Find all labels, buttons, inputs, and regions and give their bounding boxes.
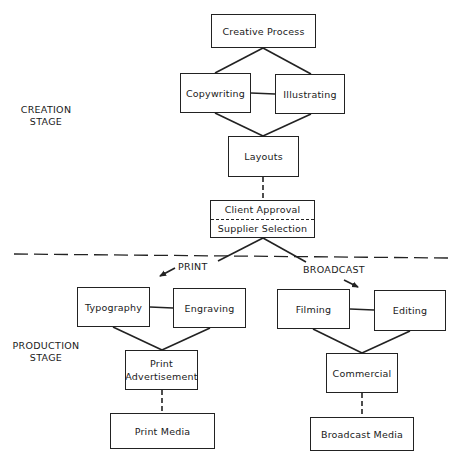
node-broadcast-media-label: Broadcast Media bbox=[321, 428, 403, 441]
node-broadcast-media: Broadcast Media bbox=[310, 417, 414, 451]
node-client-approval: Client Approval bbox=[211, 201, 314, 220]
node-print-advertisement-line2: Advertisement bbox=[125, 370, 197, 383]
node-filming: Filming bbox=[277, 289, 350, 329]
node-print-advertisement: Print Advertisement bbox=[125, 350, 198, 390]
node-layouts-label: Layouts bbox=[244, 150, 283, 163]
creation-stage-line1: CREATION bbox=[14, 104, 78, 116]
node-print-advertisement-line1: Print bbox=[150, 357, 173, 370]
node-commercial: Commercial bbox=[326, 353, 398, 393]
node-print-media-label: Print Media bbox=[135, 425, 191, 438]
node-print-media: Print Media bbox=[110, 413, 215, 449]
creation-stage-line2: STAGE bbox=[14, 116, 78, 128]
node-supplier-selection: Supplier Selection bbox=[211, 220, 314, 238]
branch-broadcast-label: BROADCAST bbox=[303, 264, 365, 275]
node-creative-process-label: Creative Process bbox=[222, 25, 304, 38]
node-illustrating-label: Illustrating bbox=[283, 88, 336, 101]
node-commercial-label: Commercial bbox=[333, 367, 392, 380]
node-client-supplier: Client Approval Supplier Selection bbox=[210, 200, 315, 238]
node-filming-label: Filming bbox=[296, 303, 331, 316]
node-supplier-selection-label: Supplier Selection bbox=[218, 222, 308, 235]
node-engraving: Engraving bbox=[173, 288, 246, 328]
node-engraving-label: Engraving bbox=[185, 302, 235, 315]
node-editing: Editing bbox=[374, 290, 446, 331]
branch-print-label: PRINT bbox=[178, 261, 208, 272]
node-client-approval-label: Client Approval bbox=[225, 203, 301, 216]
node-editing-label: Editing bbox=[393, 304, 428, 317]
production-stage-line2: STAGE bbox=[8, 352, 84, 364]
node-copywriting: Copywriting bbox=[180, 73, 251, 113]
node-layouts: Layouts bbox=[228, 136, 299, 177]
node-typography: Typography bbox=[77, 287, 150, 327]
production-stage-label: PRODUCTION STAGE bbox=[8, 340, 84, 364]
node-copywriting-label: Copywriting bbox=[186, 87, 245, 100]
production-stage-line1: PRODUCTION bbox=[8, 340, 84, 352]
node-typography-label: Typography bbox=[85, 301, 142, 314]
creation-stage-label: CREATION STAGE bbox=[14, 104, 78, 128]
node-illustrating: Illustrating bbox=[275, 74, 345, 114]
node-creative-process: Creative Process bbox=[211, 14, 316, 48]
